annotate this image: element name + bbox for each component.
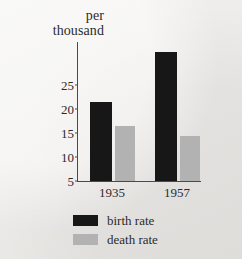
y-tick-label: 5 — [68, 174, 75, 187]
y-tick-mark — [75, 180, 78, 181]
y-tick-mark — [75, 156, 78, 157]
y-tick-label: 15 — [61, 126, 74, 139]
chart-legend: birth rate death rate — [73, 211, 158, 249]
bar-death-rate-1935 — [115, 126, 135, 181]
y-axis-title-line-1: per — [0, 8, 104, 23]
y-tick-mark — [75, 109, 78, 110]
y-tick-mark — [75, 85, 78, 86]
legend-item-death-rate: death rate — [73, 230, 158, 249]
y-tick-label: 25 — [61, 79, 74, 92]
plot-area: 5 10 15 20 25 1935 1957 — [78, 42, 200, 181]
y-axis-title-line-2: thousand — [0, 23, 104, 38]
bar-birth-rate-1935 — [90, 102, 112, 181]
legend-label-death-rate: death rate — [107, 233, 158, 246]
legend-item-birth-rate: birth rate — [73, 211, 158, 230]
bar-death-rate-1957 — [180, 136, 200, 181]
x-axis-line — [77, 181, 201, 182]
y-tick-label: 20 — [61, 103, 74, 116]
y-tick-mark — [75, 132, 78, 133]
legend-swatch-death-rate-icon — [73, 234, 98, 245]
legend-swatch-birth-rate-icon — [73, 215, 98, 226]
x-axis-label: 1957 — [164, 186, 190, 200]
y-axis-title: per thousand — [0, 8, 104, 38]
y-axis-line — [77, 42, 78, 182]
bar-chart-figure: per thousand 5 10 15 20 25 1935 1957 bir… — [0, 0, 242, 259]
x-axis-label: 1935 — [99, 186, 125, 200]
bar-birth-rate-1957 — [155, 52, 177, 181]
y-tick-label: 10 — [61, 150, 74, 163]
legend-label-birth-rate: birth rate — [107, 214, 154, 227]
